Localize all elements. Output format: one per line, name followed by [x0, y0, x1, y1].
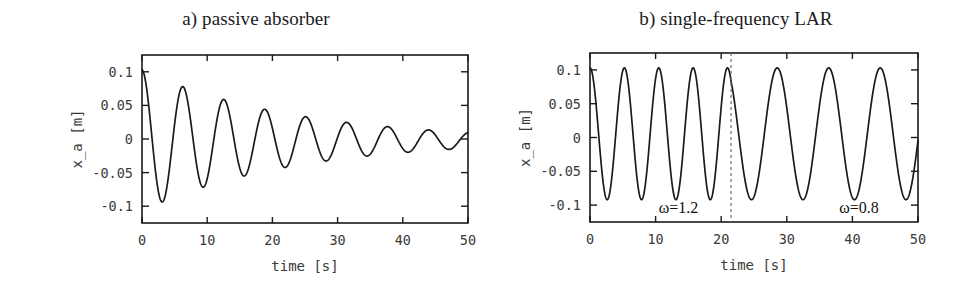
x-tick-label: 40 [395, 232, 411, 248]
y-axis-label: x_a [m] [517, 108, 534, 167]
y-tick-label: 0 [573, 130, 581, 146]
y-tick-label: -0.05 [92, 165, 133, 181]
x-tick-label: 30 [779, 231, 795, 247]
panel-a-plot: 010203040500.10.050-0.05-0.1time [s]x_a … [0, 0, 482, 287]
x-tick-label: 50 [460, 232, 476, 248]
y-tick-label: 0.1 [109, 64, 133, 80]
x-tick-label: 30 [329, 232, 345, 248]
x-tick-label: 20 [264, 232, 280, 248]
y-tick-label: 0.05 [100, 97, 133, 113]
y-tick-label: 0.05 [548, 96, 581, 112]
x-axis-label: time [s] [720, 257, 787, 273]
data-curve [142, 70, 468, 202]
panel-passive-absorber: a) passive absorber 010203040500.10.050-… [0, 0, 482, 287]
y-tick-label: -0.05 [540, 163, 581, 179]
omega-annotation: ω=0.8 [839, 199, 879, 216]
x-tick-label: 0 [586, 231, 594, 247]
x-tick-label: 10 [647, 231, 663, 247]
y-tick-label: 0 [125, 131, 133, 147]
y-axis-label: x_a [m] [69, 109, 86, 168]
panel-single-frequency-lar: b) single-frequency LAR 010203040500.10.… [483, 0, 965, 287]
x-tick-label: 10 [199, 232, 215, 248]
x-tick-label: 0 [138, 232, 146, 248]
y-tick-label: 0.1 [557, 62, 581, 78]
x-axis-label: time [s] [271, 258, 338, 274]
x-tick-label: 40 [844, 231, 860, 247]
panel-b-plot: 010203040500.10.050-0.05-0.1time [s]x_a … [483, 0, 965, 287]
x-tick-label: 20 [713, 231, 729, 247]
y-tick-label: -0.1 [100, 198, 133, 214]
x-tick-label: 50 [910, 231, 926, 247]
figure-container: a) passive absorber 010203040500.10.050-… [0, 0, 965, 287]
y-tick-label: -0.1 [548, 197, 581, 213]
omega-annotation: ω=1.2 [659, 199, 699, 216]
data-curve [590, 68, 918, 200]
